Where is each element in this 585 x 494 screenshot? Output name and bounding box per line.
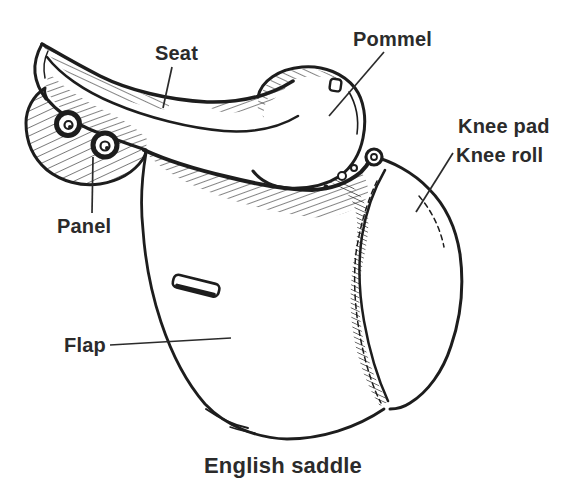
- panel-ring-1-dot: [68, 125, 72, 129]
- flap-accent-line-2: [230, 427, 255, 433]
- label-knee-pad: Knee pad: [458, 115, 550, 137]
- label-seat: Seat: [155, 42, 198, 64]
- label-knee-roll: Knee roll: [456, 144, 543, 166]
- skirt-nail-dot-3: [324, 185, 329, 190]
- panel-ring-2-dot: [105, 146, 109, 150]
- leader-line-panel: [92, 157, 93, 213]
- diagram-canvas: Seat Pommel Knee pad Knee roll Panel Fla…: [0, 0, 585, 494]
- knee-pad-outer-edge: [372, 156, 462, 409]
- label-flap: Flap: [64, 334, 106, 356]
- label-panel: Panel: [57, 215, 111, 237]
- buckle-ring: [366, 149, 382, 165]
- figure-caption: English saddle: [204, 453, 362, 479]
- pommel-nail-head: [329, 78, 342, 91]
- skirt-nail-dot-1: [338, 172, 346, 180]
- pommel-inner-line: [349, 92, 358, 134]
- cantle-inner-line: [44, 51, 48, 78]
- label-pommel: Pommel: [353, 28, 432, 50]
- stirrup-bar-keeper: [172, 274, 221, 298]
- saddle-illustration: [0, 0, 585, 494]
- skirt-nail-dot-2: [351, 165, 357, 171]
